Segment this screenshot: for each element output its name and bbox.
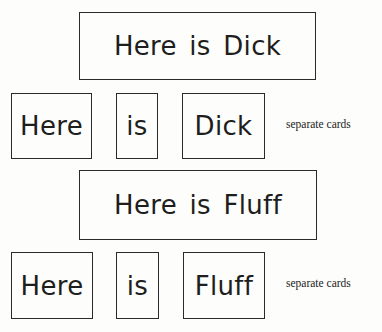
sentence-card-dick: Here is Dick [79, 12, 316, 80]
separate-cards-note: separate cards [286, 277, 351, 289]
word-text: Dick [195, 111, 253, 141]
word-card-here: Here [11, 93, 92, 159]
separate-cards-note: separate cards [286, 118, 351, 130]
word-text: Here [20, 111, 83, 141]
word-card-fluff: Fluff [183, 252, 265, 319]
word-card-dick: Dick [182, 93, 265, 159]
word-text: is [126, 111, 147, 141]
word-card-here: Here [11, 252, 93, 319]
sentence-text: Here is Dick [114, 31, 281, 61]
word-card-is: is [116, 93, 158, 159]
word-card-is: is [116, 252, 159, 319]
word-text: Here [21, 271, 84, 301]
sentence-card-fluff: Here is Fluff [79, 170, 317, 240]
sentence-text: Here is Fluff [114, 190, 282, 220]
word-text: is [127, 271, 148, 301]
word-text: Fluff [195, 271, 253, 301]
